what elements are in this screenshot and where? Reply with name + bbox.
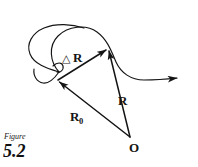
- label-delta-r: △ R: [62, 50, 83, 65]
- label-r-text: R: [118, 93, 128, 108]
- caption-number-text: 5.2: [3, 141, 26, 161]
- label-delta-r-text: R: [73, 50, 83, 65]
- label-origin-text: O: [129, 140, 139, 155]
- delta-symbol-icon: △: [62, 52, 71, 64]
- figure-caption: Figure 5.2: [3, 132, 26, 161]
- figure-background: [0, 0, 198, 167]
- figure-5-2-diagram: △ R R R 0 O Figure 5.2: [0, 0, 198, 167]
- label-r-zero-subscript: 0: [79, 116, 83, 126]
- figure-container: △ R R R 0 O Figure 5.2: [0, 0, 198, 167]
- caption-word-text: Figure: [3, 132, 26, 141]
